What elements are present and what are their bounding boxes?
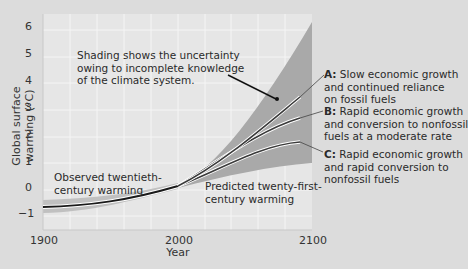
shading-annotation: Shading shows the uncertainty owing to i… <box>77 49 244 87</box>
x-tick-2100: 2100 <box>299 234 327 247</box>
y-tick-neg1: −1 <box>18 207 32 220</box>
y-axis-label: Global surface warming (°C) <box>10 61 36 191</box>
y-tick-6: 6 <box>18 20 32 33</box>
y-tick-5: 5 <box>18 47 32 60</box>
x-tick-1900: 1900 <box>30 234 58 247</box>
shading-pointer-dot <box>275 97 279 101</box>
observed-annotation: Observed twentieth- century warming <box>54 171 162 196</box>
x-axis-label: Year <box>158 246 198 259</box>
scenario-b-label: B: Rapid economic growth and conversion … <box>324 105 468 143</box>
scenario-a-label: A: Slow economic growth and continued re… <box>324 68 458 106</box>
predicted-annotation: Predicted twenty-first- century warming <box>205 180 322 205</box>
scenario-c-label: C: Rapid economic growth and rapid conve… <box>324 148 463 186</box>
